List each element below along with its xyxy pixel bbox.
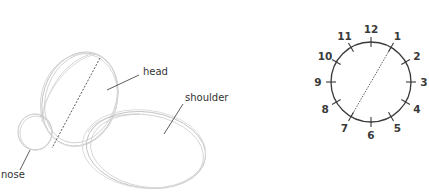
head-leader-line (107, 75, 139, 90)
clock-number-9: 9 (314, 76, 321, 88)
clock-number-7: 7 (341, 122, 348, 134)
clock-number-10: 10 (318, 50, 333, 62)
clock-number-1: 1 (394, 30, 401, 42)
clock-number-2: 2 (413, 50, 420, 62)
clock-face (326, 37, 416, 127)
shoulder-sketch (78, 104, 210, 192)
clock-tick (332, 60, 341, 65)
clock-tick (401, 60, 410, 65)
clock-number-6: 6 (367, 129, 374, 141)
clock-number-12: 12 (364, 23, 379, 35)
clock-tick (389, 112, 394, 121)
clock-tick (401, 100, 410, 105)
clock-axis-line (351, 47, 391, 116)
shoulder-label: shoulder (185, 92, 228, 103)
figure: head shoulder nose 12 1 2 3 4 5 6 7 8 9 … (0, 0, 429, 192)
head-label: head (143, 66, 168, 77)
clock-tick (332, 100, 341, 105)
clock-number-11: 11 (337, 30, 352, 42)
nose-leader-line (20, 150, 30, 170)
nose-sketch (18, 114, 52, 150)
head-sketch (30, 42, 130, 156)
clock-number-8: 8 (321, 103, 328, 115)
clock-number-3: 3 (420, 76, 427, 88)
clock-number-5: 5 (394, 122, 401, 134)
clock-tick (349, 43, 354, 52)
nose-label: nose (1, 169, 25, 180)
clock-number-4: 4 (413, 103, 420, 115)
